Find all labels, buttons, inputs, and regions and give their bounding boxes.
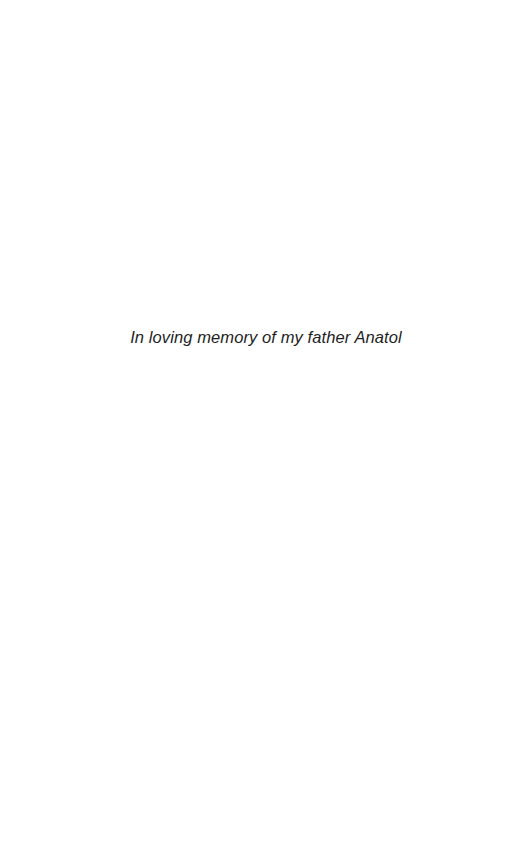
- book-page: In loving memory of my father Anatol: [0, 0, 532, 859]
- dedication-text: In loving memory of my father Anatol: [0, 326, 532, 348]
